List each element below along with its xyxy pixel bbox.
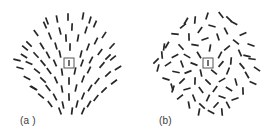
line-segment — [94, 95, 99, 101]
line-segment — [172, 71, 179, 73]
line-segment — [109, 43, 114, 48]
line-segment — [110, 56, 116, 61]
line-segment — [209, 44, 210, 51]
line-segment — [53, 94, 57, 101]
line-segment — [180, 24, 186, 29]
line-segment — [195, 16, 196, 23]
line-segment — [59, 107, 62, 114]
line-segment — [181, 60, 184, 67]
line-segment — [24, 76, 31, 79]
line-segment — [198, 108, 199, 115]
line-segment — [238, 50, 241, 57]
line-segment — [211, 70, 217, 75]
line-segment — [217, 33, 219, 40]
line-segment — [201, 38, 208, 41]
line-segment — [178, 44, 183, 50]
line-segment — [231, 21, 238, 25]
line-segment — [82, 93, 85, 100]
line-segment — [226, 102, 230, 109]
line-segment — [248, 58, 255, 59]
line-segment — [213, 102, 218, 108]
line-segment — [76, 100, 78, 107]
line-segment — [95, 78, 100, 84]
line-segment — [165, 42, 169, 49]
line-segment — [55, 77, 58, 84]
stimulus-panel-b: (b) — [139, 0, 279, 140]
line-segment — [208, 25, 215, 27]
line-segment — [61, 85, 62, 92]
stimulus-panel-a: (a ) — [0, 0, 140, 140]
line-segment — [231, 57, 232, 64]
line-segment — [219, 78, 226, 82]
fixation-marker-a — [64, 58, 74, 68]
line-segment — [102, 32, 106, 38]
line-segment — [191, 63, 198, 66]
line-segment — [100, 62, 105, 68]
line-segment — [53, 60, 56, 67]
line-segment — [40, 77, 46, 82]
line-segment — [26, 61, 33, 64]
line-segment — [250, 81, 257, 84]
line-segment — [247, 44, 254, 47]
line-segment — [59, 50, 61, 57]
line-segment — [205, 79, 210, 84]
figure-root: (a ) (b) — [0, 0, 279, 140]
line-segment — [89, 16, 91, 23]
line-segment — [82, 108, 85, 115]
line-segment — [47, 68, 51, 74]
line-segment — [177, 95, 183, 100]
line-segment — [33, 52, 38, 57]
line-segment — [85, 26, 87, 33]
line-segment — [183, 88, 190, 90]
line-segment — [21, 54, 27, 58]
line-segment — [188, 101, 189, 108]
line-segment — [199, 103, 205, 108]
line-segment — [89, 57, 93, 64]
line-segment — [87, 67, 90, 74]
line-segment — [224, 46, 230, 51]
line-segment — [26, 41, 31, 46]
line-segment — [16, 67, 23, 69]
line-segment — [171, 34, 178, 35]
line-segment — [101, 87, 106, 92]
line-segment — [233, 40, 239, 45]
line-segment — [240, 32, 247, 35]
line-segment — [235, 78, 237, 85]
line-segment — [165, 62, 171, 66]
line-segment — [200, 69, 202, 76]
line-segment — [34, 30, 38, 36]
panel-label-b: (b) — [159, 114, 172, 128]
line-segment — [197, 52, 201, 58]
line-segment — [206, 95, 209, 102]
line-segment — [243, 55, 250, 57]
line-segment — [59, 27, 61, 34]
line-segment — [88, 85, 92, 91]
line-segment — [208, 110, 215, 114]
line-segment — [62, 101, 64, 108]
line-segment — [184, 18, 188, 25]
line-segment — [61, 68, 62, 75]
line-segment — [38, 94, 44, 99]
line-segment — [55, 42, 57, 49]
line-segment — [162, 78, 169, 80]
line-segment — [82, 75, 85, 82]
line-segment — [179, 78, 184, 83]
line-segment — [105, 54, 110, 59]
line-segment — [46, 17, 49, 24]
line-segment — [218, 52, 222, 59]
line-segment — [49, 33, 52, 40]
line-segment — [41, 60, 46, 66]
line-segment — [94, 21, 97, 28]
line-segment — [56, 15, 57, 22]
line-segment — [48, 101, 52, 107]
line-segment — [13, 59, 20, 61]
line-segment — [72, 107, 73, 114]
line-segment — [224, 28, 227, 35]
line-segment — [162, 51, 163, 58]
line-segment — [219, 61, 224, 67]
line-segment — [218, 96, 225, 99]
line-segment — [75, 84, 77, 91]
line-segment — [226, 16, 231, 21]
fixation-marker-b — [203, 58, 213, 68]
line-segment — [34, 69, 40, 74]
